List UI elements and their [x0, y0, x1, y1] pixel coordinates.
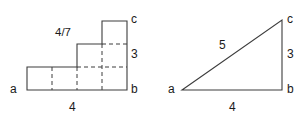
staircase-fraction-label: 4/7 — [55, 27, 71, 39]
triangle-hypotenuse-measure: 5 — [219, 39, 226, 51]
staircase-vertex-label-a: a — [10, 83, 17, 95]
staircase-height-measure: 3 — [131, 48, 138, 60]
staircase-vertex-label-c: c — [131, 13, 137, 25]
staircase-figure — [0, 0, 306, 126]
triangle-vertical-measure: 3 — [287, 48, 294, 60]
triangle-vertex-label-a: a — [168, 83, 175, 95]
triangle-vertex-label-c: c — [287, 13, 293, 25]
staircase-outline — [27, 21, 127, 90]
triangle-base-measure: 4 — [229, 101, 236, 113]
staircase-vertex-label-b: b — [131, 83, 138, 95]
triangle-vertex-label-b: b — [287, 83, 294, 95]
staircase-base-measure: 4 — [69, 101, 76, 113]
figure-canvas: a b c 4 3 4/7 a b c 5 3 4 — [0, 0, 306, 126]
triangle-outline — [182, 20, 282, 90]
